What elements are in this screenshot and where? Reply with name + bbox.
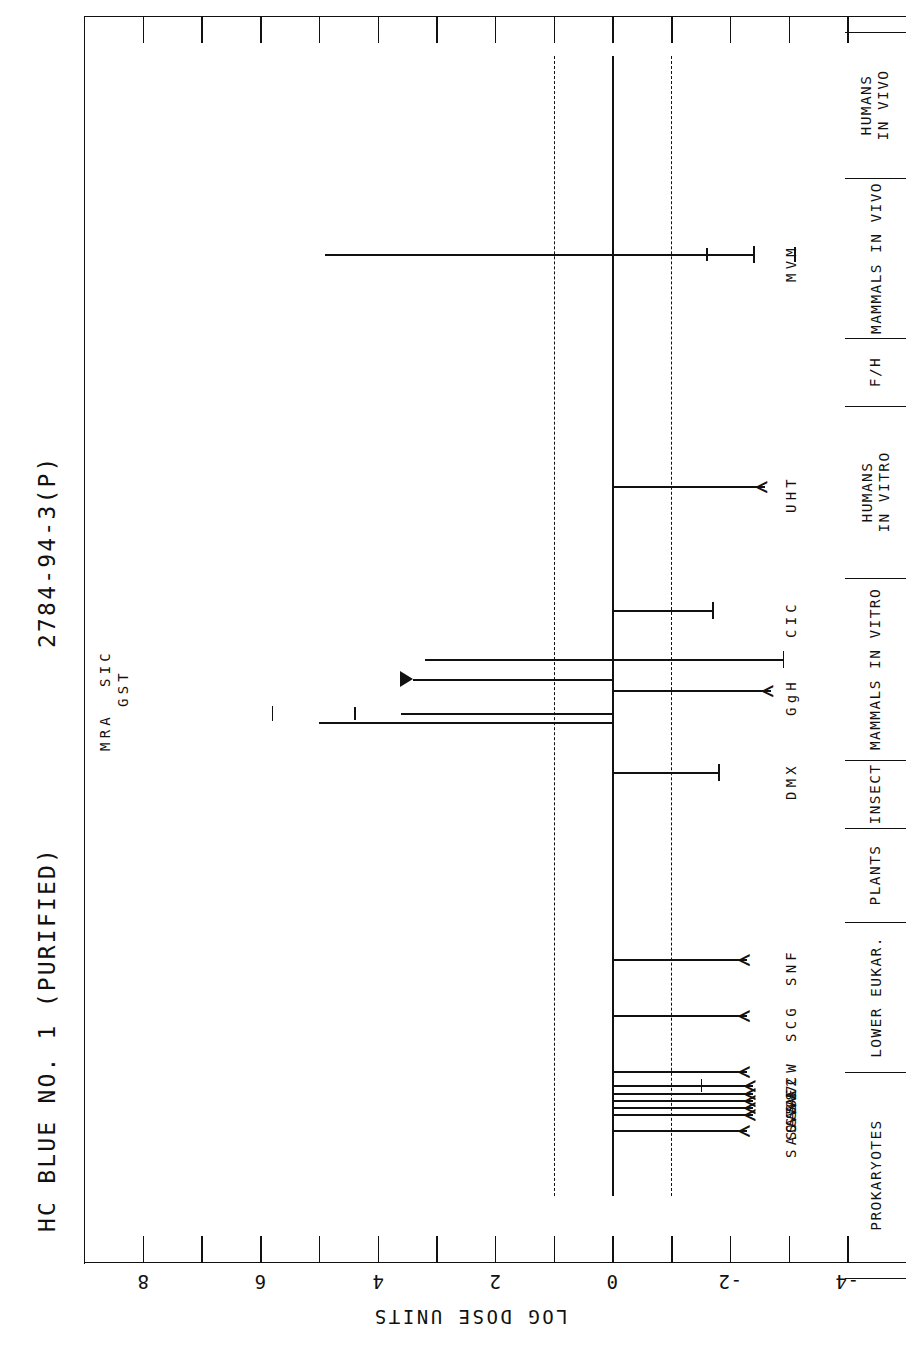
row-code-SAO: SAO bbox=[783, 1120, 799, 1158]
x-tick-top bbox=[319, 16, 320, 43]
range-bar bbox=[612, 772, 718, 774]
reference-line--1 bbox=[671, 56, 672, 1196]
row-code-MRA: MRA bbox=[97, 713, 113, 751]
category-label: PLANTS bbox=[868, 845, 884, 906]
x-axis-title: LOG DOSE UNITS bbox=[330, 1306, 610, 1328]
range-bar bbox=[612, 610, 712, 612]
range-bar-dashed bbox=[612, 659, 782, 660]
x-tick bbox=[201, 1236, 202, 1263]
plot-left-rule bbox=[84, 16, 85, 1264]
extra-tick bbox=[354, 707, 356, 720]
x-tick-top bbox=[378, 16, 379, 43]
x-tick-top bbox=[789, 16, 790, 43]
category-humans-in-vitro: HUMANSIN VITRO bbox=[845, 406, 906, 578]
category-mammals-in-vivo: MAMMALS IN VIVO bbox=[845, 178, 906, 338]
x-tick bbox=[789, 1236, 790, 1263]
row-code-CIC: CIC bbox=[783, 600, 799, 638]
x-tick-top bbox=[730, 16, 731, 43]
category-label: HUMANSIN VIVO bbox=[859, 70, 893, 141]
category-lower-eukar: LOWER EUKAR. bbox=[845, 922, 906, 1072]
cas-number-title: 2784-94-3(P) bbox=[34, 455, 60, 648]
end-cap bbox=[783, 651, 785, 668]
end-cap bbox=[712, 602, 714, 619]
range-bar bbox=[612, 1093, 753, 1095]
end-cap bbox=[753, 246, 755, 263]
stray-tick bbox=[272, 706, 274, 721]
chevron-marker: < bbox=[738, 1004, 750, 1027]
row-code-UHT: UHT bbox=[783, 475, 799, 513]
x-tick-top bbox=[143, 16, 144, 43]
x-tick bbox=[436, 1236, 437, 1263]
range-bar bbox=[612, 959, 747, 961]
x-tick-top bbox=[201, 16, 202, 43]
page-title: HC BLUE NO. 1 (PURIFIED) bbox=[34, 847, 60, 1232]
chart-canvas: HC BLUE NO. 1 (PURIFIED) 2784-94-3(P) 86… bbox=[0, 0, 912, 1356]
category-prokaryotes: PROKARYOTES bbox=[845, 1072, 906, 1278]
range-bar bbox=[612, 486, 765, 488]
category-insect: INSECT bbox=[845, 760, 906, 828]
x-tick bbox=[495, 1236, 496, 1263]
category-label: HUMANSIN VITRO bbox=[859, 451, 893, 532]
x-tick-label: 2 bbox=[470, 1272, 520, 1291]
range-bar bbox=[612, 1107, 753, 1109]
category-separator bbox=[845, 32, 906, 33]
chevron-marker: < bbox=[738, 1119, 750, 1142]
x-tick bbox=[730, 1236, 731, 1263]
range-bar bbox=[413, 679, 613, 681]
chevron-marker: < bbox=[738, 948, 750, 971]
category-separator bbox=[845, 1278, 906, 1279]
x-tick bbox=[260, 1236, 261, 1263]
row-code-GgH: GgH bbox=[783, 678, 799, 716]
x-tick bbox=[378, 1236, 379, 1263]
x-tick-top bbox=[612, 16, 613, 43]
x-tick bbox=[143, 1236, 144, 1263]
range-bar-dashed bbox=[325, 254, 613, 255]
category-humans-in-vivo: HUMANSIN VIVO bbox=[845, 32, 906, 178]
category-band: HUMANSIN VIVOMAMMALS IN VIVOF/HHUMANSIN … bbox=[845, 16, 906, 1262]
category-label: INSECT bbox=[868, 764, 884, 825]
range-bar bbox=[612, 1100, 753, 1102]
category-plants: PLANTS bbox=[845, 828, 906, 922]
x-tick-top bbox=[671, 16, 672, 43]
row-code-DMX: DMX bbox=[783, 762, 799, 800]
x-tick bbox=[612, 1236, 613, 1263]
range-bar bbox=[612, 1015, 747, 1017]
x-tick-label: 8 bbox=[118, 1272, 168, 1291]
x-tick-top bbox=[260, 16, 261, 43]
extra-tick bbox=[701, 1079, 703, 1092]
x-tick bbox=[319, 1236, 320, 1263]
arrow-marker bbox=[400, 671, 413, 687]
chevron-marker: < bbox=[762, 679, 774, 702]
row-code-MVM: MVM bbox=[783, 244, 799, 282]
x-tick-label: 6 bbox=[235, 1272, 285, 1291]
category-mammals-in-vitro: MAMMALS IN VITRO bbox=[845, 578, 906, 760]
row-code-SNF: SNF bbox=[783, 948, 799, 986]
x-tick-label: -2 bbox=[705, 1272, 755, 1291]
range-bar bbox=[319, 722, 613, 724]
chevron-marker: < bbox=[756, 475, 768, 498]
category-label: F/H bbox=[867, 357, 883, 387]
range-bar bbox=[401, 713, 612, 715]
row-code-GST: GST bbox=[115, 669, 131, 707]
range-bar bbox=[612, 690, 771, 692]
reference-line-0 bbox=[612, 56, 614, 1196]
row-code-SIC: SIC bbox=[97, 649, 113, 687]
x-tick-top bbox=[436, 16, 437, 43]
range-bar bbox=[612, 1071, 747, 1073]
category-label: PROKARYOTES bbox=[868, 1119, 884, 1230]
range-bar bbox=[612, 1114, 753, 1116]
x-tick bbox=[671, 1236, 672, 1263]
x-tick-label: 0 bbox=[587, 1272, 637, 1291]
end-cap bbox=[718, 764, 720, 781]
row-code-SCG: SCG bbox=[783, 1004, 799, 1042]
category-label: LOWER EUKAR. bbox=[868, 936, 884, 1058]
x-tick-top bbox=[554, 16, 555, 43]
lel-tick bbox=[706, 248, 708, 261]
category-f-h: F/H bbox=[845, 338, 906, 406]
range-bar bbox=[612, 1130, 747, 1132]
category-label: MAMMALS IN VITRO bbox=[868, 588, 884, 750]
range-bar bbox=[612, 1085, 753, 1087]
x-tick-top bbox=[495, 16, 496, 43]
reference-line-1 bbox=[554, 56, 555, 1196]
end-cap bbox=[612, 714, 614, 731]
